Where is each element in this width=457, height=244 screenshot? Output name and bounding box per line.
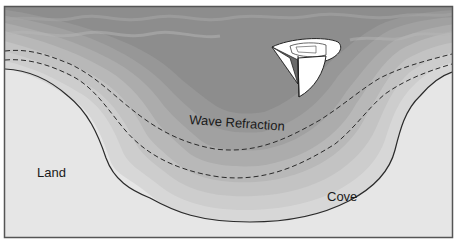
wave-refraction-diagram: Wave Refraction Land Cove bbox=[0, 0, 457, 244]
diagram-canvas: Wave Refraction Land Cove bbox=[0, 0, 457, 244]
label-cove: Cove bbox=[327, 189, 357, 204]
label-land: Land bbox=[37, 165, 66, 180]
